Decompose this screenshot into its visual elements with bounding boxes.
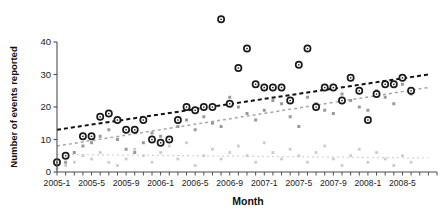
data-point-dark-core [212, 106, 214, 108]
data-point-light [202, 154, 205, 157]
data-point-mid [297, 125, 300, 128]
data-point-mid [289, 115, 292, 118]
data-point-dark-core [341, 100, 343, 102]
data-point-light [263, 141, 266, 144]
data-point-dark-core [82, 135, 84, 137]
data-point-light [306, 161, 309, 164]
data-point-dark-core [177, 119, 179, 121]
data-point-dark-core [272, 87, 274, 89]
data-point-mid [401, 83, 404, 86]
chart-canvas: 2005-12005-52005-92006-12006-52006-92007… [0, 0, 446, 213]
data-point-mid [366, 109, 369, 112]
data-point-light [246, 154, 249, 157]
data-point-light [375, 151, 378, 154]
data-point-dark-core [108, 113, 110, 115]
data-point-mid [392, 102, 395, 105]
data-point-light [228, 151, 231, 154]
data-point-light [125, 158, 128, 161]
x-tick-label: 2007-9 [320, 178, 347, 188]
data-point-mid [107, 128, 110, 131]
x-tick-labels: 2005-12005-52005-92006-12006-52006-92007… [44, 178, 416, 188]
data-point-light [73, 161, 76, 164]
series-mid-points [56, 83, 413, 167]
data-point-light [211, 148, 214, 151]
data-point-mid [358, 106, 361, 109]
data-point-light [220, 158, 223, 161]
data-point-dark-core [238, 67, 240, 69]
data-point-dark-core [281, 87, 283, 89]
x-tick-label: 2007-5 [285, 178, 312, 188]
data-point-light [341, 164, 344, 167]
data-point-dark-core [289, 100, 291, 102]
data-point-mid [323, 109, 326, 112]
data-point-mid [133, 151, 136, 154]
data-point-mid [237, 106, 240, 109]
data-point-light [159, 151, 162, 154]
data-point-light [384, 158, 387, 161]
data-point-mid [151, 132, 154, 135]
data-point-light [315, 151, 318, 154]
data-point-light [237, 145, 240, 148]
x-tick-label: 2008-5 [389, 178, 416, 188]
data-point-mid [306, 96, 309, 99]
data-point-light [168, 145, 171, 148]
data-point-mid [81, 145, 84, 148]
x-tick-label: 2005-1 [44, 178, 71, 188]
data-point-light [323, 145, 326, 148]
scatter-chart-figure: 2005-12005-52005-92006-12006-52006-92007… [0, 0, 446, 213]
data-point-light [82, 154, 85, 157]
data-point-light [116, 164, 119, 167]
data-point-dark-core [350, 77, 352, 79]
data-point-light [297, 154, 300, 157]
data-point-dark-core [246, 48, 248, 50]
data-point-dark-core [376, 93, 378, 95]
data-point-mid [228, 96, 231, 99]
x-tick-label: 2006-9 [216, 178, 243, 188]
data-point-mid [332, 112, 335, 115]
data-point-mid [116, 138, 119, 141]
data-point-mid [185, 119, 188, 122]
data-point-mid [220, 125, 223, 128]
data-point-light [332, 158, 335, 161]
trendlines-group [57, 75, 428, 159]
trend-mid [57, 88, 428, 147]
data-point-mid [349, 99, 352, 102]
data-point-light [392, 164, 395, 167]
data-point-light [142, 154, 145, 157]
data-point-dark-core [91, 135, 93, 137]
data-point-dark-core [143, 119, 145, 121]
data-point-dark-core [65, 155, 67, 157]
data-point-dark-core [168, 139, 170, 141]
data-point-dark-core [194, 109, 196, 111]
data-point-light [99, 151, 102, 154]
series-dark-points [54, 16, 414, 165]
x-tick-label: 2007-1 [251, 178, 278, 188]
data-point-light [64, 164, 67, 167]
y-axis-title: Number of events reported [8, 46, 19, 168]
data-point-dark-core [384, 83, 386, 85]
data-point-light [107, 161, 110, 164]
x-tick-label: 2005-9 [113, 178, 140, 188]
data-point-dark-core [125, 129, 127, 131]
data-point-dark-core [186, 106, 188, 108]
data-point-mid [64, 161, 67, 164]
data-point-mid [263, 109, 266, 112]
data-point-light [280, 158, 283, 161]
data-point-dark-core [255, 83, 257, 85]
data-point-light [410, 161, 413, 164]
data-point-light [349, 154, 352, 157]
data-point-dark-core [134, 129, 136, 131]
data-point-dark-core [358, 90, 360, 92]
data-point-light [289, 148, 292, 151]
x-tick-label: 2006-1 [147, 178, 174, 188]
data-point-mid [99, 135, 102, 138]
data-point-light [272, 151, 275, 154]
data-point-dark-core [315, 106, 317, 108]
data-point-dark-core [367, 119, 369, 121]
x-tick-label: 2005-5 [78, 178, 105, 188]
data-point-dark-core [160, 142, 162, 144]
x-tick-label: 2006-5 [182, 178, 209, 188]
data-point-dark-core [229, 103, 231, 105]
data-point-dark-core [151, 139, 153, 141]
data-point-dark-core [410, 90, 412, 92]
